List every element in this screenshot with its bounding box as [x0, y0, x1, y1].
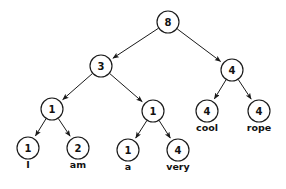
node-word-label: I	[26, 159, 30, 170]
node-value-label: 8	[165, 17, 172, 28]
tree-edge	[113, 28, 159, 58]
tree-node[interactable]: 8	[157, 11, 179, 33]
node-value-label: 4	[175, 145, 182, 156]
tree-node[interactable]: 2am	[67, 137, 89, 170]
node-value-label: 1	[49, 104, 56, 115]
tree-edge	[136, 121, 147, 138]
tree-edge	[58, 119, 70, 137]
tree-edge	[35, 119, 46, 136]
nodes-layer: 834114cool4rope1I2am1a4very	[17, 11, 271, 172]
tree-edge	[214, 80, 226, 99]
edges-layer	[35, 28, 251, 138]
node-word-label: very	[166, 161, 190, 172]
node-value-label: 3	[98, 61, 105, 72]
tree-node[interactable]: 4	[221, 59, 243, 81]
node-word-label: rope	[247, 122, 271, 133]
tree-node[interactable]: 3	[90, 55, 112, 77]
tree-edge	[177, 29, 220, 62]
node-value-label: 1	[150, 106, 157, 117]
tree-node[interactable]: 1a	[117, 139, 139, 172]
node-value-label: 2	[75, 143, 82, 154]
tree-diagram-canvas: 834114cool4rope1I2am1a4very	[0, 0, 286, 189]
node-word-label: am	[70, 159, 86, 170]
tree-edge	[63, 74, 93, 100]
tree-node[interactable]: 4very	[166, 139, 190, 172]
node-word-label: cool	[196, 122, 218, 133]
tree-edge	[238, 80, 251, 100]
tree-node[interactable]: 4rope	[247, 100, 271, 133]
node-word-label: a	[125, 161, 131, 172]
node-value-label: 4	[256, 106, 263, 117]
tree-svg: 834114cool4rope1I2am1a4very	[0, 0, 286, 189]
node-value-label: 1	[125, 145, 132, 156]
tree-node[interactable]: 4cool	[196, 100, 218, 133]
node-value-label: 4	[229, 65, 236, 76]
tree-node[interactable]: 1I	[17, 137, 39, 170]
node-value-label: 4	[204, 106, 211, 117]
node-value-label: 1	[25, 143, 32, 154]
tree-edge	[159, 121, 170, 138]
tree-node[interactable]: 1	[142, 100, 164, 122]
tree-node[interactable]: 1	[41, 98, 63, 120]
tree-edge	[110, 74, 143, 102]
